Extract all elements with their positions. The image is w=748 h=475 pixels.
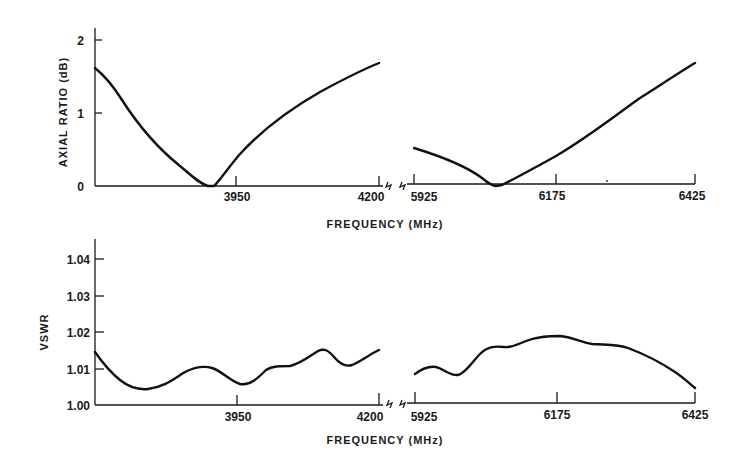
x-tick-label: 6425 — [679, 189, 706, 203]
y-tick-label: 0 — [77, 180, 84, 194]
axial-ratio-chart: AXIAL RATIO (dB) 2 1 0 3950 4200 5925 61… — [57, 28, 706, 230]
y-tick-label: 2 — [77, 34, 84, 48]
x-axis-label: FREQUENCY (MHz) — [327, 434, 444, 446]
axis-break-icon — [386, 182, 391, 190]
vswr-curve-high-band — [415, 336, 695, 388]
x-tick-label: 5925 — [411, 410, 438, 424]
x-tick-label: 5925 — [411, 190, 438, 204]
y-axis-label-axial-ratio: AXIAL RATIO (dB) — [57, 57, 69, 167]
x-tick-label: 4200 — [357, 410, 384, 424]
x-tick-label: 6425 — [682, 408, 709, 422]
vswr-chart: VSWR 1.04 1.03 1.02 1.01 1.00 3950 4200 … — [38, 239, 709, 446]
vswr-curve-low-band — [95, 350, 379, 390]
y-tick-label: 1.04 — [67, 253, 91, 267]
figure: AXIAL RATIO (dB) 2 1 0 3950 4200 5925 61… — [0, 0, 748, 475]
axis-break-icon — [387, 400, 392, 408]
y-tick-label: 1.02 — [67, 326, 91, 340]
stray-dot — [606, 180, 608, 182]
y-tick-label: 1 — [77, 107, 84, 121]
x-axis-label: FREQUENCY (MHz) — [327, 218, 444, 230]
x-tick-label: 6175 — [539, 189, 566, 203]
x-tick-label: 3950 — [225, 410, 252, 424]
axis-break-icon — [400, 182, 405, 190]
y-tick-label: 1.01 — [67, 363, 91, 377]
axial-ratio-curve-high-band — [414, 63, 695, 186]
y-axis-label-vswr: VSWR — [38, 314, 50, 351]
y-tick-label: 1.00 — [67, 399, 91, 413]
y-tick-label: 1.03 — [67, 290, 91, 304]
x-tick-label: 6175 — [544, 408, 571, 422]
axis-break-icon — [400, 400, 405, 408]
x-tick-label: 4200 — [358, 190, 385, 204]
x-tick-label: 3950 — [224, 190, 251, 204]
axial-ratio-curve-low-band — [95, 63, 379, 186]
